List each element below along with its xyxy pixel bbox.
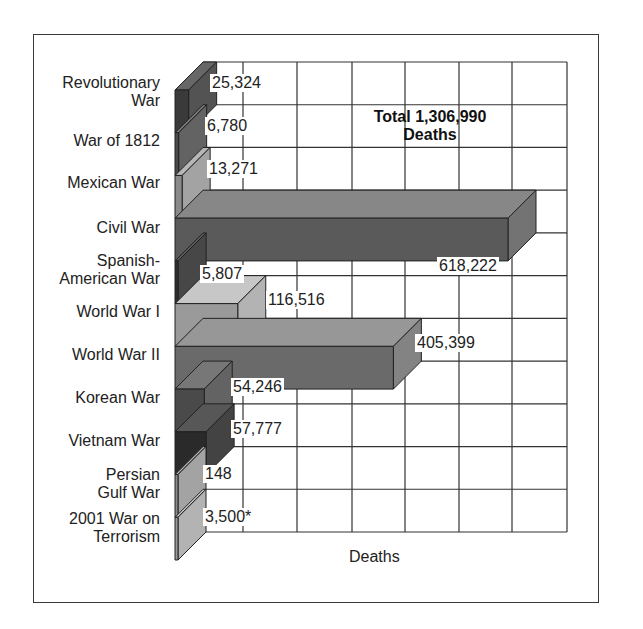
- value-label: 5,807: [200, 265, 244, 283]
- category-label: Spanish-American War: [59, 252, 160, 288]
- category-label-line: Persian: [97, 466, 160, 484]
- category-label: Korean War: [75, 389, 160, 407]
- total-line-2: Deaths: [355, 126, 505, 144]
- category-label-line: Korean War: [75, 389, 160, 407]
- category-label: Vietnam War: [68, 432, 160, 450]
- value-label: 3,500*: [203, 508, 253, 526]
- category-label-line: Gulf War: [97, 484, 160, 502]
- value-label: 6,780: [205, 117, 249, 135]
- value-label: 25,324: [210, 74, 263, 92]
- category-label-line: American War: [59, 270, 160, 288]
- total-annotation: Total 1,306,990 Deaths: [355, 108, 505, 144]
- category-label-line: Spanish-: [59, 252, 160, 270]
- category-label-line: Mexican War: [67, 174, 160, 192]
- value-label: 405,399: [415, 334, 477, 352]
- category-label-line: War of 1812: [73, 132, 160, 150]
- category-label-line: World War II: [72, 346, 160, 364]
- category-label-line: War: [62, 92, 160, 110]
- category-label-line: Revolutionary: [62, 74, 160, 92]
- x-axis-label: Deaths: [349, 548, 400, 566]
- category-label-line: World War I: [76, 303, 160, 321]
- value-label: 148: [203, 465, 234, 483]
- bar-civil-war: [175, 190, 536, 261]
- value-label: 13,271: [207, 160, 260, 178]
- category-label-line: 2001 War on: [69, 510, 160, 528]
- total-line-1: Total 1,306,990: [355, 108, 505, 126]
- value-label: 116,516: [266, 291, 327, 309]
- value-label: 57,777: [231, 420, 284, 438]
- category-label: Mexican War: [67, 174, 160, 192]
- category-label: 2001 War onTerrorism: [69, 510, 160, 546]
- category-label-line: Civil War: [97, 219, 160, 237]
- category-label: RevolutionaryWar: [62, 74, 160, 110]
- category-label: World War II: [72, 346, 160, 364]
- category-label: World War I: [76, 303, 160, 321]
- category-label: PersianGulf War: [97, 466, 160, 502]
- category-label: War of 1812: [73, 132, 160, 150]
- value-label: 54,246: [231, 378, 284, 396]
- category-label-line: Terrorism: [69, 528, 160, 546]
- value-label: 618,222: [437, 257, 499, 275]
- category-label-line: Vietnam War: [68, 432, 160, 450]
- category-label: Civil War: [97, 219, 160, 237]
